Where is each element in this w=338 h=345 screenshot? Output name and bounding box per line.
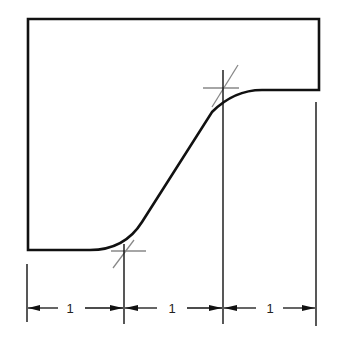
part-profile-outline xyxy=(28,19,319,250)
dimension-label-2: 1 xyxy=(168,301,175,316)
arrow-right-icon xyxy=(110,305,123,311)
upper-tangent-mark xyxy=(203,65,239,107)
extension-lines xyxy=(27,70,316,326)
arrow-right-icon xyxy=(209,305,222,311)
arrow-left-icon xyxy=(125,305,138,311)
dimension-label-3: 1 xyxy=(266,301,273,316)
technical-drawing: 1 1 1 xyxy=(0,0,338,345)
dimension-label-1: 1 xyxy=(66,301,73,316)
arrow-left-icon xyxy=(28,305,40,311)
arrow-right-icon xyxy=(302,305,315,311)
arrow-left-icon xyxy=(224,305,237,311)
